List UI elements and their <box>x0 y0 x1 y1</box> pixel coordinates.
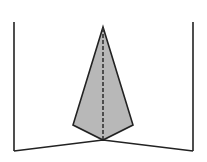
floor-edges <box>14 140 193 151</box>
dihedral-diagram <box>0 0 207 162</box>
